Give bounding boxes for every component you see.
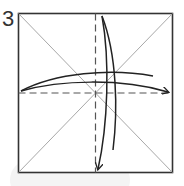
- fold-diagram: [0, 0, 184, 186]
